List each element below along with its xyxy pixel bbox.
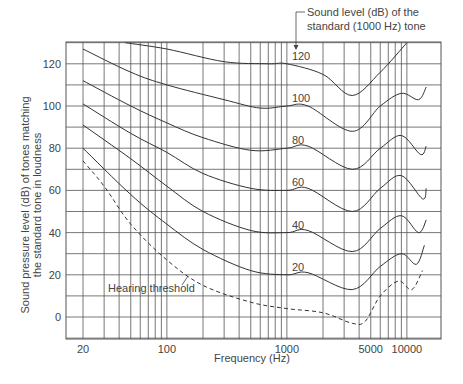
annotation-arrow-icon <box>296 12 305 49</box>
curve-label-20: 20 <box>292 261 304 273</box>
x-tick-label: 10000 <box>392 343 423 355</box>
curve-label-40: 40 <box>292 219 304 231</box>
x-axis-label: Frequency (Hz) <box>214 352 290 364</box>
loudness-curve-80 <box>83 81 426 170</box>
y-tick-label: 100 <box>43 100 61 112</box>
y-axis-label: Sound pressure level (dB) of tones match… <box>19 96 43 313</box>
hearing-threshold-text: Hearing threshold <box>108 282 195 294</box>
loudness-curve-120 <box>125 43 407 96</box>
x-tick-label: 20 <box>77 343 89 355</box>
hearing-threshold-curve <box>83 161 423 325</box>
x-tick-label: 5000 <box>359 343 383 355</box>
curve-label-60: 60 <box>292 176 304 188</box>
y-tick-label: 0 <box>55 311 61 323</box>
annotation-line-1: Sound level (dB) of the <box>307 6 419 18</box>
loudness-curve-100 <box>83 49 426 131</box>
loudness-curve-60 <box>83 104 426 212</box>
y-axis-label-line-2: the standard tone in loudness <box>31 132 43 277</box>
curve-label-100: 100 <box>292 92 310 104</box>
equal-loudness-chart: 020406080100120 201001000500010000 12010… <box>0 0 463 384</box>
y-tick-label: 20 <box>49 269 61 281</box>
y-tick-label: 120 <box>43 58 61 70</box>
y-tick-label: 60 <box>49 184 61 196</box>
y-axis-label-line-1: Sound pressure level (dB) of tones match… <box>19 96 31 313</box>
grid-lines <box>66 42 441 339</box>
curve-labels: 12010080604020 <box>292 50 310 273</box>
y-axis-ticks: 020406080100120 <box>43 58 61 323</box>
x-tick-label: 100 <box>158 343 176 355</box>
curve-label-80: 80 <box>292 134 304 146</box>
curve-label-120: 120 <box>292 50 310 62</box>
annotation-line-2: standard (1000 Hz) tone <box>307 20 426 32</box>
y-tick-label: 40 <box>49 227 61 239</box>
y-tick-label: 80 <box>49 142 61 154</box>
hearing-threshold-label: Hearing threshold <box>108 276 195 294</box>
